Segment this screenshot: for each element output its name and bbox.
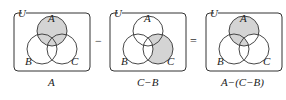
set-label-c: C — [167, 55, 175, 67]
set-label-c: C — [71, 55, 79, 67]
set-label-b: B — [25, 55, 32, 67]
set-label-a: A — [143, 12, 151, 24]
set-label-a: A — [47, 12, 55, 24]
universe-label: U — [210, 7, 219, 19]
caption: A−(C−B) — [220, 76, 264, 89]
universe-label: U — [18, 7, 27, 19]
minus-operator: − — [95, 34, 102, 48]
venn-equation: U A B C A − U A B C C−B = — [0, 0, 286, 100]
set-label-c: C — [263, 55, 271, 67]
equals-operator: = — [190, 34, 197, 48]
caption: A — [47, 76, 55, 88]
caption: C−B — [137, 76, 159, 88]
venn-diagram-a-minus-c-minus-b: U A B C A−(C−B) — [206, 7, 282, 89]
set-label-b: B — [121, 55, 128, 67]
venn-diagram-c-minus-b: U A B C C−B — [110, 7, 186, 88]
set-label-a: A — [239, 12, 247, 24]
universe-label: U — [114, 7, 123, 19]
set-label-b: B — [217, 55, 224, 67]
venn-diagram-a: U A B C A — [14, 7, 90, 88]
